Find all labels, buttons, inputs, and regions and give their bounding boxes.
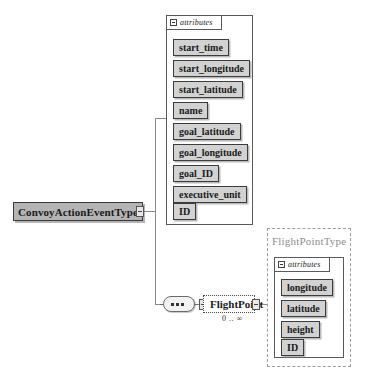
collapse-icon[interactable]	[170, 19, 177, 26]
connector-branch-vertical	[155, 118, 156, 305]
attribute-label: longitude	[287, 282, 327, 293]
type-box-label: ConvoyActionEventType	[18, 206, 138, 218]
schema-diagram: ConvoyActionEventType attributes start_t…	[0, 0, 365, 383]
attribute-label: start_latitude	[179, 84, 237, 95]
type-box-convoyactioneventtype[interactable]: ConvoyActionEventType	[13, 202, 143, 221]
occurrence-indicator: 0 .. ∞	[222, 314, 243, 323]
attribute-id-flightpoint[interactable]: ID	[281, 339, 304, 356]
attribute-label: height	[287, 324, 314, 335]
attribute-start-latitude[interactable]: start_latitude	[173, 81, 243, 98]
attribute-longitude[interactable]: longitude	[281, 279, 333, 296]
attribute-label: start_time	[179, 42, 223, 53]
attribute-label: latitude	[287, 303, 320, 314]
attribute-label: goal_ID	[179, 168, 213, 179]
attribute-label: start_longitude	[179, 63, 244, 74]
attribute-executive-unit[interactable]: executive_unit	[173, 186, 247, 203]
attribute-goal-longitude[interactable]: goal_longitude	[173, 144, 248, 161]
compositor-lead-right	[194, 304, 198, 305]
collapse-icon[interactable]	[278, 261, 285, 268]
compositor-lead-left	[160, 304, 164, 305]
attribute-label: ID	[287, 342, 298, 353]
attribute-goal-id[interactable]: goal_ID	[173, 165, 219, 182]
attribute-label: goal_latitude	[179, 126, 235, 137]
sequence-compositor[interactable]	[163, 296, 195, 312]
connector-branch-to-attributes	[155, 118, 166, 119]
attributes-tab-root[interactable]: attributes	[166, 15, 222, 30]
group-title-flightpointtype: FlightPointType	[272, 235, 346, 247]
attribute-label: name	[179, 105, 202, 116]
attributes-tab-label: attributes	[288, 260, 321, 269]
attribute-id[interactable]: ID	[173, 203, 196, 220]
sequence-dots-icon	[171, 303, 184, 306]
connector-root-to-branch	[143, 211, 155, 212]
attribute-label: goal_longitude	[179, 147, 242, 158]
element-flightpoint[interactable]: FlightPoint	[203, 295, 255, 313]
attribute-height[interactable]: height	[281, 321, 320, 338]
type-box-expand-toggle[interactable]	[136, 206, 144, 217]
attribute-label: ID	[179, 206, 190, 217]
element-expand-toggle[interactable]	[252, 299, 260, 310]
attribute-start-time[interactable]: start_time	[173, 39, 229, 56]
attribute-label: executive_unit	[179, 189, 241, 200]
attributes-tab-label: attributes	[180, 18, 213, 27]
attributes-tab-flightpointtype[interactable]: attributes	[274, 257, 330, 272]
attribute-name[interactable]: name	[173, 102, 208, 119]
attribute-start-longitude[interactable]: start_longitude	[173, 60, 250, 77]
attribute-latitude[interactable]: latitude	[281, 300, 326, 317]
attribute-goal-latitude[interactable]: goal_latitude	[173, 123, 241, 140]
